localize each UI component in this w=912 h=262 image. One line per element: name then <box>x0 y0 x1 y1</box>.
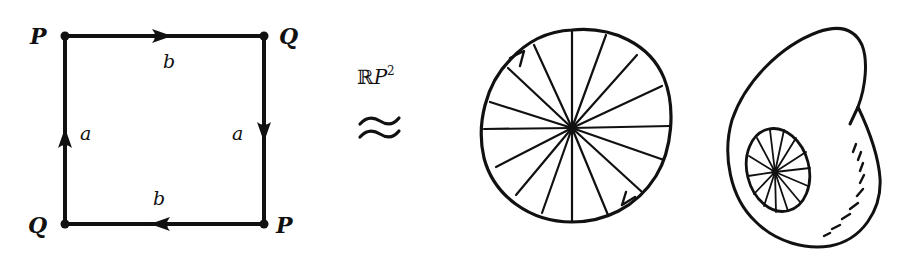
label-top-right: Q <box>279 23 298 49</box>
space-label: ℝP2 <box>357 64 395 89</box>
label-bottom-right: P <box>275 212 294 238</box>
disk-center <box>568 124 577 133</box>
rp2-diagram: P Q Q P b b a a ℝP2 <box>0 0 912 262</box>
vertex-top-right <box>260 32 269 41</box>
vertex-bottom-right <box>260 220 269 229</box>
inner-disk-spokes <box>748 130 810 212</box>
surface-hidden-edge-dashes <box>824 144 864 236</box>
label-top-left: P <box>29 23 48 49</box>
arrow-top-right-icon <box>152 29 172 43</box>
disk-with-antipodal-identification <box>481 29 671 222</box>
vertex-bottom-left <box>61 220 70 229</box>
identification-square: P Q Q P b b a a <box>28 23 298 238</box>
label-edge-top: b <box>163 50 175 72</box>
vertex-top-left <box>61 32 70 41</box>
label-bottom-left: Q <box>28 212 47 238</box>
label-edge-left: a <box>80 122 91 144</box>
homeomorphic-symbol-icon <box>360 118 399 137</box>
inner-disk-center <box>772 169 779 176</box>
surface-inner-disk <box>738 122 818 219</box>
arrow-left-up-icon <box>58 128 72 148</box>
relation: ℝP2 <box>357 64 399 137</box>
label-edge-bottom: b <box>153 187 165 209</box>
cross-cap-surface <box>728 28 880 247</box>
surface-inner-fold <box>850 107 858 124</box>
arrow-right-down-icon <box>257 122 271 142</box>
arrow-bottom-left-icon <box>150 217 170 231</box>
surface-outer-boundary <box>728 28 880 247</box>
label-edge-right: a <box>232 122 243 144</box>
